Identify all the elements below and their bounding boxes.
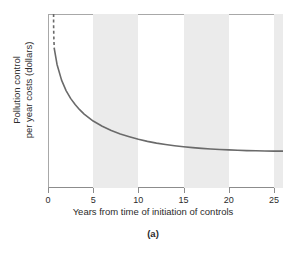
curve-dashed-segment (54, 14, 55, 49)
y-axis-title: Pollution control per year costs (dollar… (11, 3, 35, 177)
decay-curve-svg (48, 14, 283, 188)
x-axis-tick-label: 10 (125, 195, 151, 205)
x-axis-tick-label: 0 (35, 195, 61, 205)
plot-area (48, 14, 283, 188)
x-axis-tick (48, 188, 49, 193)
y-axis-title-line-2: per year costs (dollars) (23, 3, 35, 177)
x-axis-tick (184, 188, 185, 193)
figure-caption: (a) (0, 228, 306, 239)
x-axis-tick (138, 188, 139, 193)
x-axis-tick (229, 188, 230, 193)
x-axis-tick-label: 25 (261, 195, 287, 205)
y-axis-title-line-1: Pollution control (11, 3, 23, 177)
x-axis-title: Years from time of initiation of control… (0, 206, 306, 217)
x-axis-tick-label: 15 (171, 195, 197, 205)
curve-solid-segment (54, 49, 283, 151)
figure-panel-a: 0510152025 Years from time of initiation… (0, 0, 306, 255)
x-axis-tick-label: 20 (216, 195, 242, 205)
x-axis-tick (274, 188, 275, 193)
x-axis-tick-label: 5 (80, 195, 106, 205)
x-axis-tick (93, 188, 94, 193)
